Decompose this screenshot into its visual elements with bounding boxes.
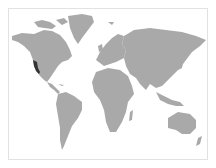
africa (92, 68, 134, 132)
central-america (47, 82, 60, 94)
arctic-islands (34, 18, 68, 29)
world-map (0, 0, 216, 168)
madagascar (129, 110, 133, 121)
new-zealand (196, 136, 202, 146)
north-america (12, 30, 72, 82)
greenland (68, 14, 94, 44)
caribbean (58, 84, 64, 86)
asia (122, 28, 206, 90)
australia (168, 112, 196, 134)
southeast-asia (156, 92, 184, 106)
south-america (56, 92, 82, 150)
